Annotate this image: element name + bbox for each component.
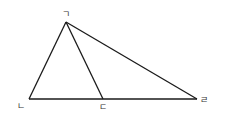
vertex-label-giyeok: ㄱ	[62, 9, 70, 19]
vertex-label-rieul: ㄹ	[200, 95, 208, 105]
vertex-label-digeut: ㄷ	[99, 102, 107, 112]
triangle-diagram: ㄱ ㄴ ㄷ ㄹ	[0, 0, 227, 113]
segment-giyeok-rieul	[66, 22, 197, 99]
segment-giyeok-nieun	[29, 22, 66, 99]
vertex-label-nieun: ㄴ	[17, 101, 25, 111]
